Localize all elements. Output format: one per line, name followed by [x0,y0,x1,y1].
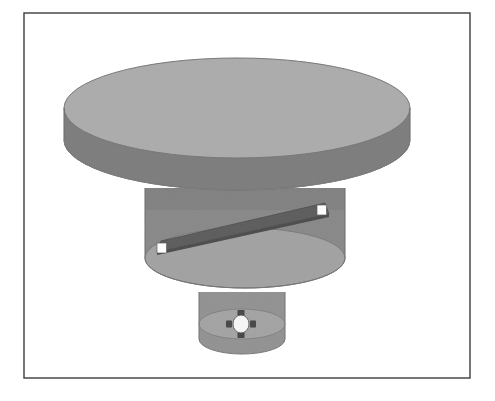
upper-flange-top-face [64,58,410,158]
hole-bore [233,315,249,333]
key-tab-east-icon [250,321,256,328]
technical-illustration [0,0,495,401]
key-tab-west-icon [226,321,232,328]
illustration-canvas: Isometric technical illustration of a st… [0,0,495,401]
blade-marker-right [317,205,327,215]
blade-marker-left [157,243,167,253]
upper-flange [60,58,416,190]
